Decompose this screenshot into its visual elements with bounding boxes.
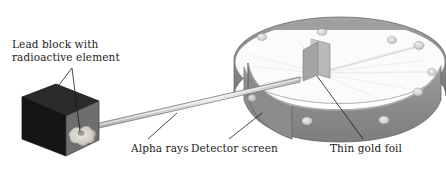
label-alpha-rays: Alpha rays [131, 142, 189, 155]
leader-detector-screen [229, 113, 262, 139]
lead-block-cube [22, 84, 99, 156]
leader-alpha-rays [148, 113, 177, 139]
label-lead-block: Lead block with radioactive element [12, 38, 120, 64]
leader-lead-block-top [59, 68, 72, 85]
label-detector-screen: Detector screen [191, 142, 278, 155]
rutherford-experiment-figure: Lead block with radioactive element Alph… [0, 0, 446, 181]
label-lead-block-line2: radioactive element [12, 51, 120, 64]
beam-impact-spot [414, 42, 424, 50]
label-lead-block-line1: Lead block with [12, 38, 120, 51]
label-thin-gold-foil: Thin gold foil [330, 142, 402, 155]
